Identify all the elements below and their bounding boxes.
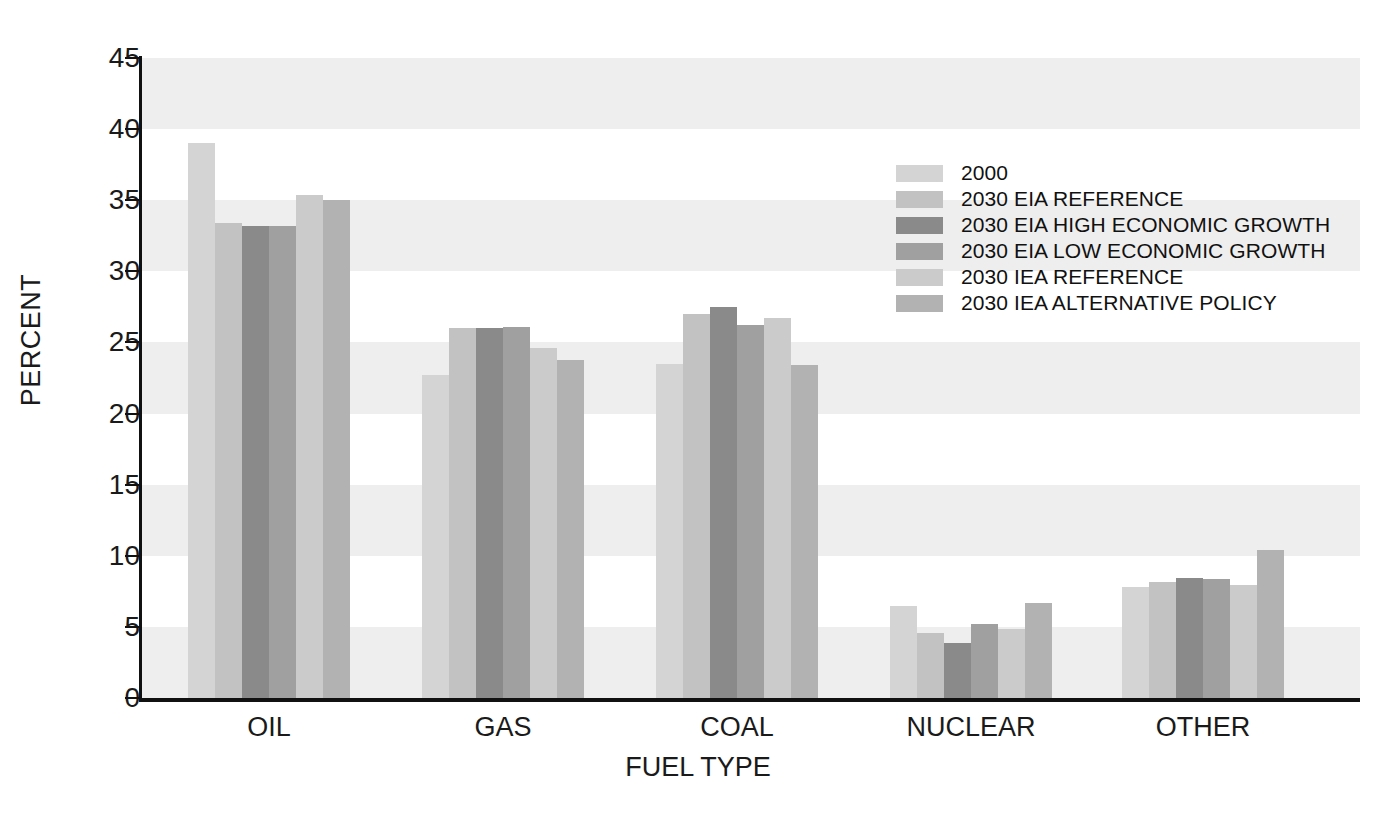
legend-item: 2030 EIA LOW ECONOMIC GROWTH	[896, 238, 1330, 264]
legend-swatch	[896, 191, 943, 208]
legend-item: 2030 IEA ALTERNATIVE POLICY	[896, 290, 1330, 316]
y-tick-mark	[125, 57, 140, 59]
y-tick-mark	[125, 128, 140, 130]
y-tick-mark	[125, 413, 140, 415]
bar-group-nuclear	[890, 58, 1052, 698]
bar	[215, 223, 242, 698]
bar-group-other	[1122, 58, 1284, 698]
legend-label: 2000	[961, 161, 1008, 185]
bar	[557, 360, 584, 698]
bar	[710, 307, 737, 698]
legend-label: 2030 EIA HIGH ECONOMIC GROWTH	[961, 213, 1330, 237]
legend-label: 2030 EIA LOW ECONOMIC GROWTH	[961, 239, 1326, 263]
bar	[683, 314, 710, 698]
plot-area	[142, 58, 1360, 698]
bar	[323, 200, 350, 698]
legend-swatch	[896, 165, 943, 182]
bar	[476, 328, 503, 698]
y-tick-mark	[125, 555, 140, 557]
bar	[944, 643, 971, 698]
legend-label: 2030 IEA REFERENCE	[961, 265, 1183, 289]
legend-item: 2030 EIA REFERENCE	[896, 186, 1330, 212]
x-axis-label-other: OTHER	[1156, 712, 1251, 743]
bar	[1176, 578, 1203, 698]
bar	[1122, 587, 1149, 698]
bar	[242, 226, 269, 698]
y-axis-title: PERCENT	[10, 0, 52, 690]
bar	[890, 606, 917, 698]
x-axis-title: FUEL TYPE	[0, 752, 1396, 783]
legend-swatch	[896, 243, 943, 260]
x-axis-label-coal: COAL	[700, 712, 774, 743]
legend-swatch	[896, 295, 943, 312]
bar	[1203, 579, 1230, 698]
legend-item: 2030 IEA REFERENCE	[896, 264, 1330, 290]
legend-swatch	[896, 217, 943, 234]
bar	[917, 633, 944, 698]
bar	[764, 318, 791, 698]
bar	[503, 327, 530, 698]
legend-item: 2030 EIA HIGH ECONOMIC GROWTH	[896, 212, 1330, 238]
legend-item: 2000	[896, 160, 1330, 186]
legend: 20002030 EIA REFERENCE2030 EIA HIGH ECON…	[896, 160, 1330, 316]
bars-layer	[142, 58, 1360, 698]
bar	[296, 195, 323, 698]
y-tick-mark	[125, 341, 140, 343]
x-axis-line	[139, 698, 1360, 702]
bar	[1230, 585, 1257, 698]
bar	[791, 365, 818, 698]
legend-label: 2030 IEA ALTERNATIVE POLICY	[961, 291, 1277, 315]
y-tick-mark	[125, 270, 140, 272]
y-tick-mark	[125, 484, 140, 486]
bar	[422, 375, 449, 698]
bar	[269, 226, 296, 698]
bar	[449, 328, 476, 698]
y-tick-mark	[125, 697, 140, 699]
y-axis-line	[139, 56, 142, 700]
bar	[188, 143, 215, 698]
bar	[1257, 550, 1284, 698]
bar-chart: PERCENT 051015202530354045 OILGASCOALNUC…	[0, 0, 1396, 833]
x-axis-label-nuclear: NUCLEAR	[906, 712, 1035, 743]
bar	[530, 348, 557, 698]
legend-swatch	[896, 269, 943, 286]
bar-group-coal	[656, 58, 818, 698]
y-tick-mark	[125, 626, 140, 628]
x-axis-label-oil: OIL	[247, 712, 291, 743]
bar	[971, 624, 998, 698]
y-tick-mark	[125, 199, 140, 201]
bar	[1025, 603, 1052, 698]
bar-group-oil	[188, 58, 350, 698]
bar	[1149, 582, 1176, 698]
bar	[656, 364, 683, 698]
x-axis-label-gas: GAS	[474, 712, 531, 743]
legend-label: 2030 EIA REFERENCE	[961, 187, 1183, 211]
bar	[737, 325, 764, 698]
bar	[998, 629, 1025, 698]
bar-group-gas	[422, 58, 584, 698]
